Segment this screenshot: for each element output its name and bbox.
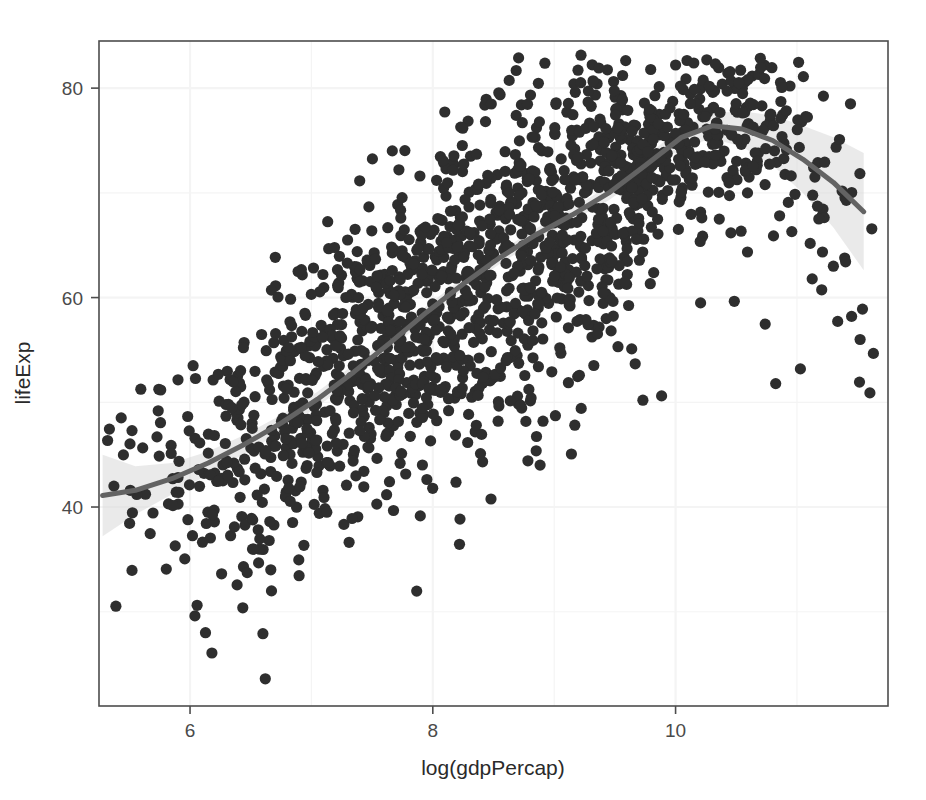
scatter-point <box>529 308 540 319</box>
scatter-point <box>600 123 611 134</box>
scatter-point <box>786 170 797 181</box>
scatter-point <box>664 103 675 114</box>
scatter-point <box>724 190 735 201</box>
scatter-point <box>252 489 263 500</box>
scatter-point <box>137 442 148 453</box>
scatter-point <box>686 209 697 220</box>
scatter-point <box>699 156 710 167</box>
scatter-point <box>457 140 468 151</box>
figure-page: 6810 406080 log(gdpPercap) lifeExp <box>0 0 926 800</box>
scatter-point <box>405 431 416 442</box>
scatter-point <box>317 269 328 280</box>
scatter-point <box>714 107 725 118</box>
scatter-point <box>572 65 583 76</box>
scatter-point <box>731 98 742 109</box>
scatter-point <box>213 476 224 487</box>
scatter-point <box>845 98 856 109</box>
scatter-point <box>161 564 172 575</box>
scatter-point <box>281 384 292 395</box>
scatter-point <box>748 99 759 110</box>
scatter-point <box>250 463 261 474</box>
scatter-point <box>505 316 516 327</box>
scatter-point <box>511 65 522 76</box>
scatter-point <box>366 225 377 236</box>
scatter-point <box>371 499 382 510</box>
scatter-point <box>458 158 469 169</box>
scatter-point <box>462 437 473 448</box>
scatter-point <box>261 345 272 356</box>
scatter-point <box>435 384 446 395</box>
scatter-point <box>421 287 432 298</box>
scatter-point <box>283 483 294 494</box>
scatter-point <box>770 378 781 389</box>
scatter-point <box>748 161 759 172</box>
scatter-point <box>270 252 281 263</box>
scatter-point <box>687 172 698 183</box>
scatter-point <box>126 565 137 576</box>
scatter-point <box>522 455 533 466</box>
scatter-point <box>308 262 319 273</box>
scatter-point <box>293 554 304 565</box>
scatter-point <box>463 409 474 420</box>
scatter-point <box>527 132 538 143</box>
scatter-point <box>429 314 440 325</box>
scatter-point <box>474 352 485 363</box>
scatter-point <box>396 448 407 459</box>
scatter-point <box>576 403 587 414</box>
scatter-point <box>306 289 317 300</box>
x-axis: 6810 <box>185 706 686 741</box>
scatter-point <box>509 268 520 279</box>
scatter-point <box>354 277 365 288</box>
scatter-point <box>451 273 462 284</box>
scatter-point <box>477 372 488 383</box>
scatter-point <box>286 320 297 331</box>
scatter-point <box>588 139 599 150</box>
scatter-point <box>118 449 129 460</box>
scatter-point <box>334 360 345 371</box>
scatter-point <box>818 91 829 102</box>
scatter-point <box>491 294 502 305</box>
scatter-point <box>386 241 397 252</box>
scatter-point <box>657 194 668 205</box>
scatter-point <box>868 348 879 359</box>
scatter-point <box>226 402 237 413</box>
scatter-point <box>388 290 399 301</box>
scatter-point <box>526 255 537 266</box>
plot-canvas: 6810 406080 log(gdpPercap) lifeExp <box>0 0 926 800</box>
scatter-point <box>220 438 231 449</box>
scatter-point <box>417 403 428 414</box>
scatter-point <box>710 149 721 160</box>
scatter-point <box>742 246 753 257</box>
scatter-point <box>609 85 620 96</box>
scatter-point <box>464 227 475 238</box>
scatter-point <box>562 283 573 294</box>
scatter-point <box>450 430 461 441</box>
scatter-point <box>421 345 432 356</box>
scatter-point <box>201 518 212 529</box>
scatter-point <box>644 104 655 115</box>
x-tick-label: 10 <box>665 720 686 741</box>
scatter-point <box>126 425 137 436</box>
scatter-point <box>484 214 495 225</box>
scatter-point <box>318 492 329 503</box>
scatter-point <box>124 518 135 529</box>
scatter-point <box>534 116 545 127</box>
scatter-point <box>301 423 312 434</box>
scatter-point <box>786 226 797 237</box>
scatter-point <box>432 213 443 224</box>
scatter-point <box>256 329 267 340</box>
scatter-point <box>292 417 303 428</box>
scatter-point <box>575 77 586 88</box>
scatter-point <box>104 424 115 435</box>
scatter-point <box>695 236 706 247</box>
scatter-point <box>307 327 318 338</box>
scatter-point <box>283 342 294 353</box>
scatter-point <box>563 377 574 388</box>
scatter-point <box>400 468 411 479</box>
scatter-point <box>342 234 353 245</box>
scatter-point <box>572 151 583 162</box>
scatter-point <box>550 410 561 421</box>
scatter-point <box>645 64 656 75</box>
scatter-point <box>235 419 246 430</box>
scatter-point <box>172 374 183 385</box>
